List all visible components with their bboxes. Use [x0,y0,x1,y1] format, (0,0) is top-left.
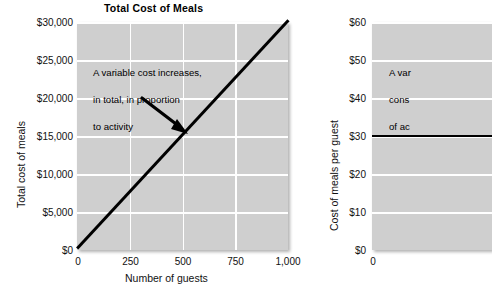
left-x-axis-title: Number of guests [125,272,208,284]
right-ytick-50: $50 [330,55,366,66]
left-ytick-20000: $20,000 [17,93,73,104]
right-gridline-60 [372,22,492,24]
right-annotation-line-1: A var [389,66,459,80]
right-ytick-60: $60 [330,17,366,28]
left-xtick-0: 0 [75,256,81,267]
right-y-axis-title: Cost of meals per guest [328,120,340,231]
left-ytick-0: $0 [17,245,73,256]
left-annotation-arrow-icon [140,96,196,138]
left-y-axis-title: Total cost of meals [15,121,27,208]
left-chart-title: Total Cost of Meals [104,2,203,14]
left-annotation-line-1: A variable cost increases, [93,66,238,80]
left-ytick-5000: $5,000 [17,207,73,218]
left-xtick-250: 250 [122,256,139,267]
right-gridline-20 [372,174,492,176]
left-ytick-30000: $30,000 [17,17,73,28]
right-annotation: A var cons of ac [389,52,459,147]
right-xtick-0: 0 [370,256,376,267]
left-xtick-1000: 1,000 [275,256,300,267]
right-ytick-40: $40 [330,93,366,104]
right-ytick-0: $0 [330,245,366,256]
right-annotation-line-2: cons [389,93,459,107]
left-xtick-500: 500 [175,256,192,267]
right-gridline-10 [372,212,492,214]
left-ytick-25000: $25,000 [17,55,73,66]
left-xtick-750: 750 [227,256,244,267]
right-annotation-line-3: of ac [389,120,459,134]
